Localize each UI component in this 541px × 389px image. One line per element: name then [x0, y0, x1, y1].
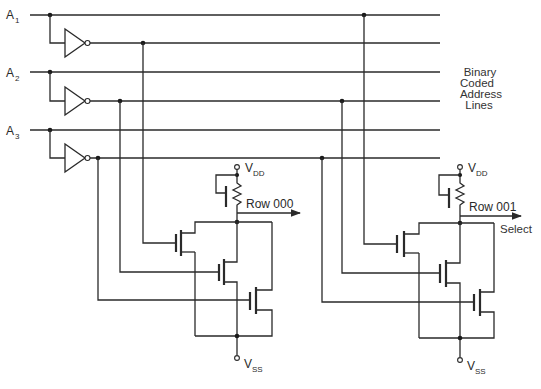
inverter-bubble — [85, 156, 90, 161]
vdd-terminal — [458, 165, 463, 170]
svg-text:Lines: Lines — [465, 99, 493, 111]
input-label-a3: A 3 — [6, 124, 20, 141]
svg-text:2: 2 — [15, 74, 20, 83]
svg-text:SS: SS — [475, 367, 486, 376]
row-000-label: Row 000 — [246, 197, 294, 211]
svg-text:SS: SS — [252, 365, 263, 374]
vdd-terminal — [235, 165, 240, 170]
inverter-a1 — [48, 13, 90, 57]
select-label: Select — [500, 223, 533, 235]
vdd-label-row-001: V DD — [468, 161, 488, 178]
input-label-a2: A 2 — [6, 66, 20, 83]
inverter-bubble — [85, 41, 90, 46]
row-001-label: Row 001 — [469, 200, 517, 214]
svg-text:DD: DD — [476, 169, 488, 178]
vss-terminal — [458, 358, 463, 363]
decoder-schematic: A 1 A 2 A 3 Binary Coded — [0, 0, 541, 389]
vss-label-row-000: V SS — [244, 357, 263, 374]
vdd-label-row-000: V DD — [245, 161, 265, 178]
binary-coded-address-lines-label: Binary Coded Address Lines — [460, 66, 502, 111]
svg-text:V: V — [244, 357, 252, 371]
inverter-bubble — [85, 99, 90, 104]
vss-terminal — [235, 356, 240, 361]
vss-label-row-001: V SS — [467, 359, 486, 376]
svg-text:A: A — [6, 124, 14, 138]
svg-text:V: V — [468, 161, 476, 175]
svg-text:3: 3 — [15, 132, 20, 141]
svg-text:DD: DD — [253, 169, 265, 178]
svg-text:A: A — [6, 66, 14, 80]
svg-text:V: V — [467, 359, 475, 373]
svg-text:V: V — [245, 161, 253, 175]
svg-text:1: 1 — [15, 16, 20, 25]
input-label-a1: A 1 — [6, 8, 20, 25]
load-resistor — [233, 180, 241, 222]
inverter-a3 — [48, 128, 90, 172]
address-lines — [30, 15, 440, 158]
svg-text:A: A — [6, 8, 14, 22]
inverter-a2 — [48, 70, 90, 115]
